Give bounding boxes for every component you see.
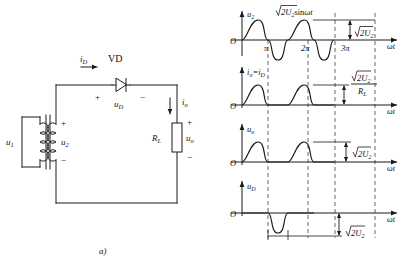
- diode-minus-sign: −: [140, 92, 145, 102]
- load-plus-sign: +: [187, 117, 192, 127]
- panel-a-caption: a): [99, 246, 107, 256]
- ud-xaxis-label: ωt: [387, 215, 396, 224]
- u2-xtick-2pi: 2π: [301, 43, 310, 53]
- circuit-diagram-panel: u1 u2 + − iD VD + uD − io RL + uo − a): [0, 0, 205, 273]
- waveform-svg: u2 O 2U2sinωt 2U2 π 2π 3π ωt: [205, 0, 410, 273]
- svg-text:2U2: 2U2: [358, 149, 371, 160]
- io-waveform: [242, 85, 334, 105]
- svg-text:2U2: 2U2: [360, 28, 373, 39]
- uo-y-arrow: [240, 124, 245, 130]
- io-origin-label: O: [230, 101, 236, 111]
- plot-uo: uo O 2U2 ωt: [230, 124, 397, 173]
- u2-equation-annotation: 2U2sinωt: [276, 6, 313, 19]
- id-arrow-head: [92, 65, 97, 70]
- primary-voltage-label: u1: [6, 137, 14, 148]
- diode-current-label: iD: [80, 54, 88, 65]
- ud-amplitude-label: 2U2: [346, 226, 365, 239]
- waveform-panel: u2 O 2U2sinωt 2U2 π 2π 3π ωt: [205, 0, 410, 273]
- uo-origin-label: O: [230, 158, 236, 168]
- plot-ud: uD O 2U2 ωt: [230, 181, 397, 240]
- io-arrow-head: [168, 109, 173, 114]
- u2-origin-label: O: [230, 36, 236, 46]
- secondary-minus-sign: −: [61, 155, 66, 165]
- svg-text:2U2sinωt: 2U2sinωt: [281, 7, 313, 18]
- u2-xtick-pi: π: [264, 43, 269, 53]
- uo-waveform: [242, 142, 334, 162]
- u2-amplitude-label: 2U2: [355, 27, 373, 40]
- diode-ref-designator: VD: [108, 53, 122, 64]
- diode-plus-sign: +: [95, 92, 100, 102]
- alignment-dashed-lines: [268, 13, 375, 238]
- load-minus-sign: −: [187, 152, 192, 162]
- load-resistor-body: [172, 123, 182, 152]
- ud-origin-label: O: [230, 209, 236, 219]
- io-amplitude-label: 2U2 RL: [351, 71, 377, 97]
- io-amp-numerator: 2U2: [357, 73, 370, 84]
- ud-y-arrow: [240, 181, 245, 187]
- diode-voltage-label: uD: [114, 99, 124, 110]
- u2-y-arrow: [240, 11, 245, 17]
- io-amp-denominator: RL: [357, 86, 367, 97]
- load-current-label: io: [182, 97, 189, 108]
- secondary-plus-sign: +: [61, 118, 66, 128]
- svg-text:2U2: 2U2: [351, 228, 364, 239]
- ud-axis-label: uD: [247, 181, 256, 192]
- load-resistor-label: RL: [151, 133, 162, 144]
- circuit-svg: u1 u2 + − iD VD + uD − io RL + uo −: [0, 0, 205, 273]
- u2-xaxis-label: ωt: [387, 42, 396, 51]
- io-axis-label: io=iD: [247, 67, 266, 78]
- io-xaxis-label: ωt: [387, 107, 396, 116]
- uo-xaxis-label: ωt: [387, 164, 396, 173]
- secondary-voltage-label: u2: [61, 137, 70, 148]
- plot-u2: u2 O 2U2sinωt 2U2 π 2π 3π ωt: [230, 6, 397, 61]
- plot-io-id: io=iD O 2U2 RL ωt: [230, 67, 397, 116]
- uo-axis-label: uo: [247, 124, 254, 135]
- u2-xtick-3pi: 3π: [340, 43, 350, 53]
- u2-axis-label: u2: [247, 9, 254, 20]
- io-y-arrow: [240, 67, 245, 73]
- diode-triangle: [116, 79, 126, 92]
- uo-amplitude-label: 2U2: [353, 147, 371, 160]
- load-voltage-label: uo: [186, 133, 195, 144]
- figure-root: u1 u2 + − iD VD + uD − io RL + uo − a): [0, 0, 410, 273]
- ud-waveform: [242, 213, 314, 233]
